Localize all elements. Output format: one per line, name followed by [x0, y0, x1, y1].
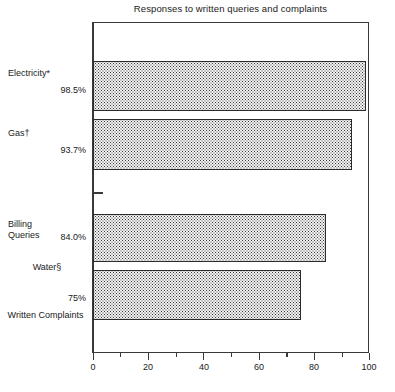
ylabel-electricity: Electricity* [8, 68, 86, 79]
xtick-minor-50 [231, 353, 232, 357]
xticklabel-80: 80 [309, 362, 319, 372]
value-label-electricity: 98.5% [8, 85, 86, 96]
xtick-100 [369, 353, 370, 360]
xtick-minor-70 [286, 353, 287, 357]
bar-gas [93, 119, 352, 170]
bar-written-complaints [93, 270, 301, 320]
ylabel-written-complaints: Written Complaints [1, 310, 90, 321]
xtick-minor-90 [342, 353, 343, 357]
xtick-60 [259, 353, 260, 360]
xticklabel-100: 100 [361, 362, 376, 372]
xtick-minor-30 [176, 353, 177, 357]
value-label-gas: 93.7% [8, 145, 86, 156]
xticklabel-60: 60 [254, 362, 264, 372]
ylabel-gas: Gas† [8, 128, 86, 139]
chart-title: Responses to written queries and complai… [92, 3, 369, 14]
bar-chart: Responses to written queries and complai… [0, 0, 395, 392]
xtick-20 [148, 353, 149, 360]
xtick-80 [314, 353, 315, 360]
value-label-billing-queries: 84.0% [8, 232, 86, 243]
xticklabel-0: 0 [90, 362, 95, 372]
xtick-minor-10 [120, 353, 121, 357]
xticklabel-20: 20 [143, 362, 153, 372]
bar-electricity [93, 61, 366, 111]
value-label-written-complaints: 75% [8, 293, 86, 304]
xticklabel-40: 40 [199, 362, 209, 372]
category-separator-tick [94, 192, 103, 194]
xtick-0 [93, 353, 94, 360]
bar-water [93, 214, 326, 262]
xtick-40 [203, 353, 204, 360]
ylabel-water: Water§ [8, 262, 86, 273]
